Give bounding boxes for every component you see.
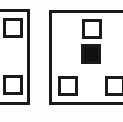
left-panel-port-bottom — [3, 75, 23, 95]
right-panel-port-centre — [81, 44, 101, 64]
figure-canvas — [0, 0, 123, 122]
right-panel-port-bottom-right — [105, 76, 123, 96]
right-panel-port-top — [82, 19, 102, 39]
right-panel-port-bottom-left — [58, 76, 78, 96]
left-panel-port-top — [3, 18, 23, 38]
